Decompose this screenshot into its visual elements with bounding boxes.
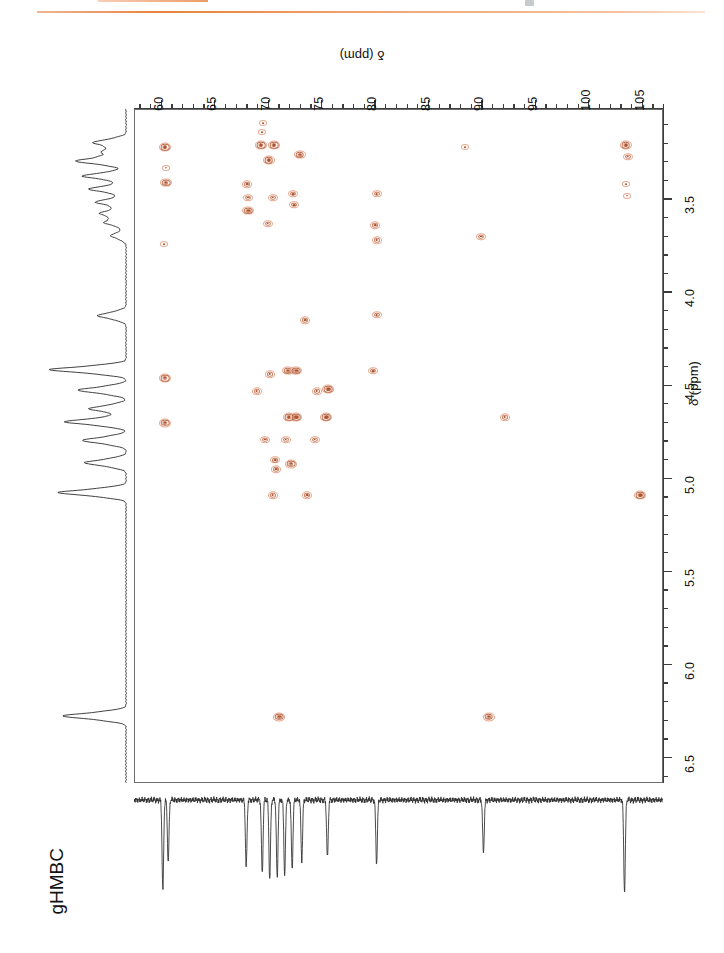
contour-ring [254, 389, 260, 394]
contour-core [372, 370, 375, 372]
contour-ring [638, 493, 643, 497]
contour-ring [370, 368, 376, 373]
proton-axis-minor-tick [663, 738, 668, 739]
experiment-label: gHMBC [46, 848, 68, 915]
contour-core [272, 197, 275, 199]
carbon-axis-tick-label: 60 [152, 96, 166, 111]
page-corner-mark [525, 0, 534, 6]
contour-ring [478, 234, 484, 239]
contour-core [626, 156, 629, 158]
contour-core [625, 184, 627, 186]
contour-core [165, 167, 167, 169]
contour-core [306, 494, 309, 496]
contour-ring [289, 201, 299, 208]
contour-ring [304, 493, 310, 498]
contour-core [278, 716, 281, 718]
contour-ring [283, 367, 292, 373]
contour-core [264, 439, 267, 441]
contour-ring [242, 181, 252, 188]
carbon-axis-tick-label: 85 [419, 96, 433, 111]
proton-axis [663, 109, 673, 783]
proton-axis-tick-label: 4.5 [683, 382, 697, 400]
contour-core [626, 195, 628, 197]
contour-ring [267, 372, 273, 377]
contour-ring [623, 143, 628, 147]
contour-core [247, 209, 250, 211]
contour-core [272, 494, 275, 496]
contour-ring [161, 420, 170, 426]
contour-ring [622, 181, 630, 187]
contour-core [639, 494, 642, 496]
contour-layer [135, 110, 662, 782]
contour-core [315, 390, 318, 392]
contour-ring [372, 237, 382, 244]
contour-ring [246, 209, 251, 213]
carbon-axis-tick-label: 90 [472, 96, 486, 111]
contour-ring [370, 222, 380, 229]
contour-ring [245, 195, 251, 200]
proton-axis-minor-tick [663, 645, 668, 646]
contour-ring [322, 414, 331, 420]
contour-core [284, 439, 287, 441]
contour-ring [259, 120, 267, 126]
contour-core [289, 463, 292, 465]
contour-ring [302, 318, 308, 323]
proton-axis-minor-tick [663, 627, 668, 628]
proton-axis-minor-tick [663, 440, 668, 441]
contour-ring [162, 179, 171, 185]
contour-core [262, 122, 264, 124]
carbon-axis-tick-label: 100 [579, 89, 593, 111]
contour-core [274, 459, 277, 461]
contour-ring [300, 317, 310, 324]
contour-ring [500, 414, 510, 421]
contour-ring [161, 375, 170, 381]
carbon-trace-path [134, 796, 663, 891]
contour-core [480, 236, 483, 238]
spectrum-plot-area[interactable] [134, 109, 663, 783]
contour-ring [244, 182, 250, 187]
contour-ring [255, 141, 267, 150]
contour-ring [623, 153, 633, 160]
contour-core [298, 154, 301, 156]
contour-ring [270, 456, 280, 463]
contour-ring [160, 241, 168, 247]
contour-core [375, 314, 378, 316]
proton-axis-minor-tick [663, 608, 668, 609]
proton-axis-tick-label: 6.0 [683, 662, 697, 680]
contour-ring [268, 194, 278, 201]
contour-core [267, 159, 270, 161]
proton-axis-minor-tick [663, 589, 668, 590]
contour-ring [260, 436, 270, 443]
proton-projection-trace [10, 109, 132, 783]
contour-ring [294, 150, 306, 159]
proton-axis-tick [663, 478, 672, 479]
contour-ring [273, 713, 285, 722]
contour-ring [271, 466, 281, 473]
proton-axis-minor-tick [663, 776, 668, 777]
proton-axis-tick-label: 6.5 [683, 755, 697, 773]
contour-ring [290, 366, 302, 375]
proton-projection-svg [10, 109, 132, 783]
carbon-axis-tick-label: 95 [526, 96, 540, 111]
proton-axis-minor-tick [663, 273, 668, 274]
contour-core [375, 193, 378, 195]
contour-ring [272, 458, 278, 463]
contour-core [464, 146, 466, 148]
contour-ring [621, 142, 630, 148]
contour-ring [159, 418, 171, 427]
proton-axis-tick-label: 4.0 [683, 289, 697, 307]
contour-ring [283, 413, 295, 422]
carbon-axis-tick-label: 105 [633, 89, 647, 111]
contour-core [295, 416, 298, 418]
contour-core [292, 193, 295, 195]
contour-core [268, 373, 271, 375]
contour-ring [486, 715, 491, 719]
carbon-projection-svg [134, 786, 663, 906]
contour-ring [372, 223, 378, 228]
contour-ring [620, 141, 632, 150]
contour-ring [372, 311, 382, 318]
proton-axis-tick-label: 3.5 [683, 196, 697, 214]
contour-ring [162, 376, 167, 380]
contour-ring [282, 366, 294, 375]
contour-core [327, 388, 330, 390]
